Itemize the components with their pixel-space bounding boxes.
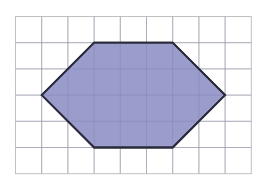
grid-diagram <box>0 0 266 183</box>
